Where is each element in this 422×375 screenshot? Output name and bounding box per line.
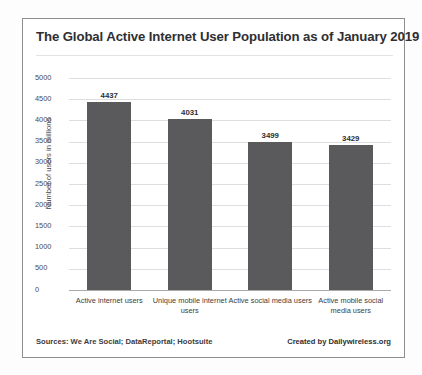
y-axis-tick-label: 2500 bbox=[35, 180, 65, 188]
y-axis-tick-label: 0 bbox=[35, 286, 65, 294]
x-axis-tick-label: Unique mobile internet users bbox=[148, 296, 233, 315]
bar-value-label: 4437 bbox=[79, 91, 139, 100]
y-axis-tick-label: 4000 bbox=[35, 116, 65, 124]
y-axis-tick-label: 2000 bbox=[35, 201, 65, 209]
y-axis-tick-label: 3000 bbox=[35, 158, 65, 166]
bar[interactable] bbox=[248, 142, 292, 290]
axis-baseline bbox=[69, 290, 391, 291]
chart-screenshot: The Global Active Internet User Populati… bbox=[0, 0, 422, 375]
bar-value-label: 4031 bbox=[160, 108, 220, 117]
y-axis-tick-label: 5000 bbox=[35, 74, 65, 82]
y-axis-tick-label: 1000 bbox=[35, 243, 65, 251]
bar[interactable] bbox=[329, 145, 373, 290]
x-axis-tick-label: Active social media users bbox=[228, 296, 313, 306]
y-axis-tick-label: 3500 bbox=[35, 137, 65, 145]
bar-value-label: 3499 bbox=[240, 131, 300, 140]
y-axis-tick-label: 1500 bbox=[35, 222, 65, 230]
bar[interactable] bbox=[87, 102, 131, 290]
gridline bbox=[69, 78, 391, 79]
bar-value-label: 3429 bbox=[321, 134, 381, 143]
bar[interactable] bbox=[168, 119, 212, 290]
chart-card: The Global Active Internet User Populati… bbox=[22, 18, 405, 358]
footer-sources: Sources: We Are Social; DataReportal; Ho… bbox=[36, 337, 212, 346]
y-axis-tick-label: 500 bbox=[35, 264, 65, 272]
y-axis-tick-label: 4500 bbox=[35, 95, 65, 103]
plot-area: Number of users in millions 500045004000… bbox=[23, 19, 406, 359]
x-axis-tick-label: Active internet users bbox=[67, 296, 152, 306]
footer-credit: Created by Dailywireless.org bbox=[287, 337, 391, 346]
x-axis-tick-label: Active mobile social media users bbox=[309, 296, 394, 315]
